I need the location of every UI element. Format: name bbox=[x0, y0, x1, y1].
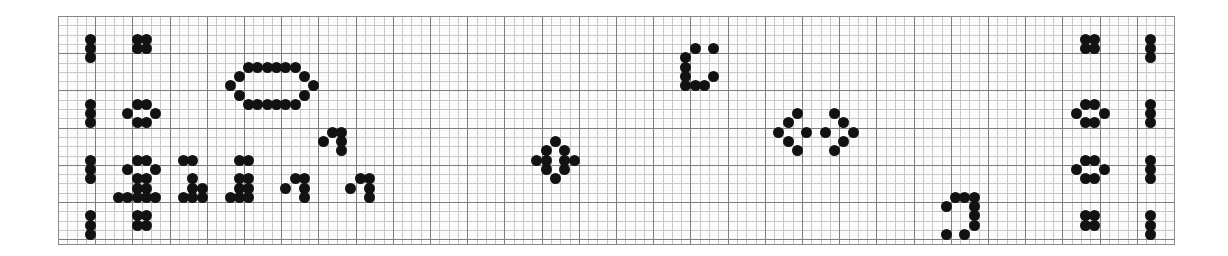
glyph-right-margin-bar-4 bbox=[58, 16, 1175, 245]
dot-marker bbox=[1145, 229, 1156, 240]
dot-pattern-layer bbox=[58, 16, 1175, 245]
pattern-sheet bbox=[0, 0, 1228, 256]
